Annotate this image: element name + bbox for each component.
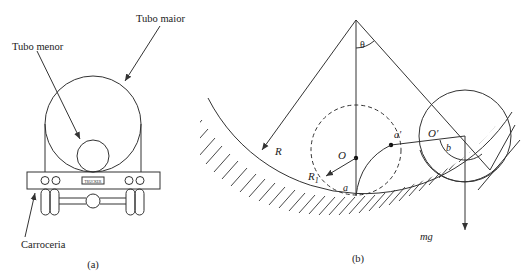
ground-hatching [174, 100, 495, 215]
plate-text: TRUCKER [85, 180, 102, 184]
leader-body [25, 193, 35, 237]
wheel-right-inner [126, 189, 135, 215]
label-large-tube: Tubo maior [136, 13, 185, 24]
wheel-left-outer [41, 189, 50, 215]
line-to-b [356, 20, 490, 170]
label-b: b [446, 142, 451, 153]
wheel-left-inner [50, 189, 59, 215]
label-theta: θ [360, 39, 365, 50]
label-R1: R1 [307, 170, 319, 185]
axle-hub [86, 194, 100, 208]
light-icon [41, 177, 49, 185]
wheel-right-outer [135, 189, 144, 215]
light-icon [125, 177, 133, 185]
label-O-prime: O′ [428, 127, 439, 139]
diagram-canvas: Tubo maior Tubo menor Carroceria TRUCKER… [0, 0, 522, 278]
label-mg: mg [420, 231, 433, 242]
theta-arc [356, 41, 374, 48]
leader-large-tube [125, 26, 160, 81]
small-tube [77, 140, 109, 172]
truck-diagram [25, 26, 160, 237]
light-icon [136, 177, 144, 185]
cylinder-diagram [174, 20, 520, 230]
large-tube [45, 76, 141, 172]
label-small-tube: Tubo menor [12, 41, 64, 52]
label-O: O [338, 149, 346, 161]
leader-small-tube [37, 51, 80, 139]
trajectory-arc [356, 145, 391, 196]
label-a: a [343, 182, 348, 193]
label-R: R [274, 145, 282, 157]
label-body: Carroceria [21, 239, 66, 250]
caption-a: (a) [87, 259, 99, 271]
light-icon [52, 177, 60, 185]
radius-R-line [262, 20, 356, 150]
caption-b: (b) [352, 253, 365, 265]
label-a-prime: a′ [394, 129, 402, 140]
